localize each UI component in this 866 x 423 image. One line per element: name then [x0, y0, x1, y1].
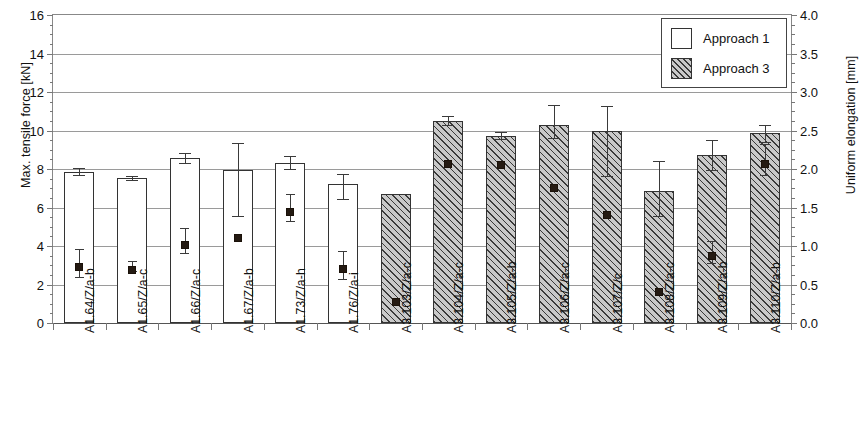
bar-error-cap-upper: [284, 156, 296, 157]
y-minor-tick-right: [791, 198, 795, 199]
y-tick-label-left: 12: [30, 86, 44, 99]
gridline: [53, 285, 791, 286]
bar-error-cap-lower: [179, 163, 191, 164]
y-tick-label-left: 8: [37, 163, 44, 176]
y-tick-label-left: 2: [37, 278, 44, 291]
marker-error-cap-lower: [180, 253, 189, 254]
y-tick-right: [791, 169, 797, 170]
y-tick-left: [47, 285, 53, 286]
data-point-marker: [128, 266, 136, 274]
x-axis-label: A3.109/Z/a-b: [716, 261, 730, 333]
x-tick: [791, 323, 792, 330]
x-tick: [580, 323, 581, 330]
legend-item-approach-3: Approach 3: [671, 58, 770, 79]
y-tick-left: [47, 246, 53, 247]
bar-error-bar: [765, 125, 766, 142]
bar-error-cap-upper: [495, 132, 507, 133]
gridline: [53, 169, 791, 170]
y-minor-tick-left: [50, 313, 54, 314]
y-tick-label-right: 4.0: [800, 9, 818, 22]
y-minor-tick-right: [791, 44, 795, 45]
y-tick-left: [47, 131, 53, 132]
y-minor-tick-right: [791, 236, 795, 237]
bar-error-cap-upper: [706, 140, 718, 141]
bar-error-bar: [238, 143, 239, 216]
y-tick-right: [791, 208, 797, 209]
y-tick-label-right: 0.5: [800, 278, 818, 291]
y-minor-tick-right: [791, 25, 795, 26]
y-tick-label-left: 0: [37, 317, 44, 330]
bar-error-bar: [607, 106, 608, 175]
y-tick-left: [47, 15, 53, 16]
marker-error-cap-lower: [760, 175, 769, 176]
x-tick: [369, 323, 370, 330]
x-tick: [527, 323, 528, 330]
data-point-marker: [497, 161, 505, 169]
x-axis-label: A3.106/Z/a-c: [558, 262, 572, 333]
y-minor-tick-left: [50, 34, 54, 35]
bar-error-cap-lower: [601, 176, 613, 177]
y-minor-tick-right: [791, 304, 795, 305]
y-minor-tick-left: [50, 304, 54, 305]
y-minor-tick-left: [50, 198, 54, 199]
x-axis-label: A3.108/Z/a-c: [663, 262, 677, 333]
marker-error-cap-upper: [286, 194, 295, 195]
bar-error-bar: [501, 132, 502, 139]
y-tick-label-right: 1.0: [800, 240, 818, 253]
bar-error-cap-lower: [548, 138, 560, 139]
y-minor-tick-left: [50, 25, 54, 26]
x-tick: [738, 323, 739, 330]
y-axis-right-title: Uniform elongation [mm]: [844, 15, 858, 235]
bar-error-bar: [343, 174, 344, 199]
marker-error-cap-upper: [180, 228, 189, 229]
bar-error-bar: [659, 161, 660, 216]
gridline: [53, 246, 791, 247]
y-minor-tick-left: [50, 159, 54, 160]
y-tick-label-right: 2.5: [800, 124, 818, 137]
data-point-marker: [761, 160, 769, 168]
y-minor-tick-right: [791, 63, 795, 64]
x-axis-label: A1.73/Z/a-h: [294, 268, 308, 333]
y-minor-tick-right: [791, 265, 795, 266]
y-tick-label-right: 2.0: [800, 163, 818, 176]
chart-legend: Approach 1 Approach 3: [661, 18, 787, 88]
y-minor-tick-right: [791, 217, 795, 218]
y-minor-tick-left: [50, 188, 54, 189]
y-minor-tick-right: [791, 294, 795, 295]
bar-error-cap-upper: [73, 168, 85, 169]
y-minor-tick-right: [791, 179, 795, 180]
y-minor-tick-left: [50, 102, 54, 103]
bar-error-cap-upper: [126, 176, 138, 177]
bar-error-cap-upper: [442, 116, 454, 117]
y-minor-tick-right: [791, 150, 795, 151]
data-point-marker: [603, 211, 611, 219]
x-tick: [211, 323, 212, 330]
legend-swatch-hatched-icon: [671, 58, 692, 79]
y-tick-right: [791, 131, 797, 132]
y-minor-tick-right: [791, 188, 795, 189]
y-minor-tick-left: [50, 275, 54, 276]
bar-error-bar: [79, 168, 80, 175]
y-minor-tick-right: [791, 159, 795, 160]
y-minor-tick-left: [50, 44, 54, 45]
data-point-marker: [392, 298, 400, 306]
bar-error-cap-lower: [495, 139, 507, 140]
y-tick-left: [47, 92, 53, 93]
bar-error-cap-upper: [653, 161, 665, 162]
marker-error-cap-upper: [75, 249, 84, 250]
gridline: [53, 92, 791, 93]
x-axis-label: A1.65/Z/a-c: [136, 269, 150, 333]
y-tick-right: [791, 15, 797, 16]
bar-error-cap-lower: [706, 170, 718, 171]
bar-error-cap-lower: [759, 142, 771, 143]
bar-error-cap-upper: [548, 105, 560, 106]
x-tick: [53, 323, 54, 330]
y-minor-tick-right: [791, 227, 795, 228]
data-point-marker: [286, 208, 294, 216]
x-axis-label: A1.67/Z/a-b: [242, 268, 256, 333]
y-minor-tick-right: [791, 82, 795, 83]
x-axis-label: A1.76/Z/a-i: [347, 272, 361, 333]
y-minor-tick-left: [50, 227, 54, 228]
bar-error-cap-upper: [759, 125, 771, 126]
y-tick-right: [791, 92, 797, 93]
